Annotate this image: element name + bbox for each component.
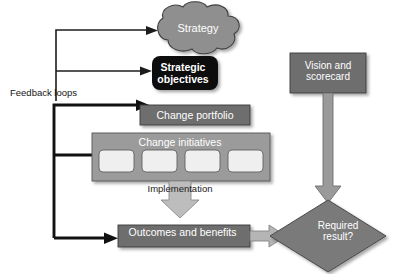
diagram-graphics [0,0,395,274]
outcomes-and-benefits-node[interactable] [118,225,250,247]
strategy-node[interactable] [158,2,240,54]
vision-and-scorecard-node[interactable] [290,53,366,93]
diagram-canvas: Strategy Strategic objectives Change por… [0,0,395,274]
strategic-objectives-node[interactable] [152,56,218,90]
change-portfolio-node[interactable] [140,105,250,125]
implementation-block-arrow [161,181,199,218]
vision-to-required-result-arrow [315,93,341,203]
required-result-node[interactable] [270,200,386,272]
